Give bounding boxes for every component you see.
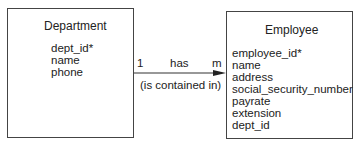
relationship-name: has	[170, 57, 189, 69]
attribute: phone	[51, 66, 93, 78]
attribute: social_security_number	[232, 83, 353, 95]
cardinality-one: 1	[137, 57, 143, 69]
attribute-primary-key: employee_id*	[232, 47, 353, 59]
entity-title: Employee	[265, 23, 318, 37]
attribute: address	[232, 71, 353, 83]
attribute-list: employee_id* name address social_securit…	[232, 47, 353, 131]
entity-title: Department	[44, 19, 107, 33]
arrowhead-icon	[213, 70, 226, 76]
attribute-foreign-key: dept_id	[232, 119, 353, 131]
cardinality-many: m	[212, 57, 222, 69]
relationship-inverse-name: (is contained in)	[140, 79, 221, 91]
attribute: extension	[232, 107, 353, 119]
attribute: name	[232, 59, 353, 71]
entity-department[interactable]: Department dept_id* name phone	[7, 8, 134, 138]
attribute: payrate	[232, 95, 353, 107]
entity-employee[interactable]: Employee employee_id* name address socia…	[226, 11, 353, 139]
attribute: name	[51, 54, 93, 66]
attribute-list: dept_id* name phone	[51, 42, 93, 78]
attribute-primary-key: dept_id*	[51, 42, 93, 54]
